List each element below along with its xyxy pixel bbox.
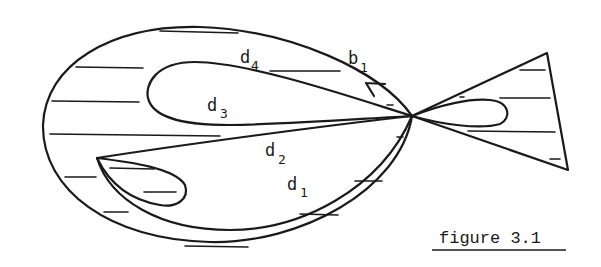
svg-text:b: b	[348, 48, 358, 68]
figure-3-1-diagram: d 4 b 1 d 3 d 2 d 1 figure 3.1	[0, 0, 601, 267]
svg-text:d: d	[287, 174, 297, 194]
right-small-loop	[412, 100, 507, 127]
svg-text:d: d	[265, 140, 275, 160]
figure-caption: figure 3.1	[439, 229, 541, 248]
svg-text:4: 4	[251, 58, 259, 73]
svg-text:d: d	[240, 47, 250, 67]
svg-text:2: 2	[278, 152, 286, 167]
hatching	[50, 31, 560, 247]
label-d1: d 1	[287, 174, 308, 200]
svg-text:1: 1	[300, 185, 308, 200]
svg-text:1: 1	[360, 60, 368, 75]
lower-loop	[97, 116, 412, 230]
label-d2: d 2	[265, 140, 286, 167]
svg-text:d: d	[207, 95, 217, 115]
b1-arrow-icon	[366, 83, 385, 96]
svg-text:3: 3	[220, 106, 228, 121]
label-d3: d 3	[207, 95, 228, 121]
